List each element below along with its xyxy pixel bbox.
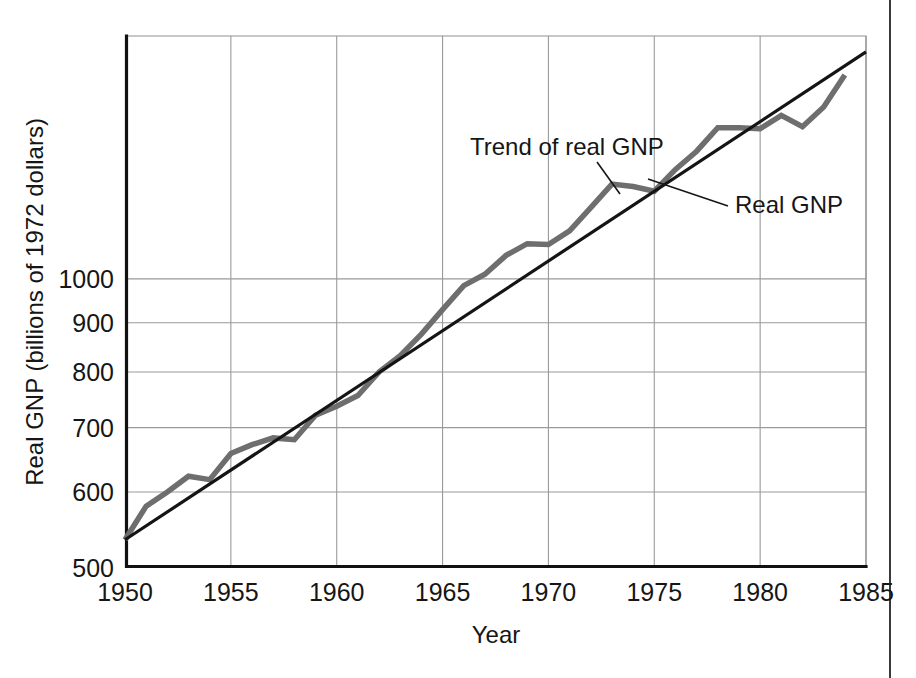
x-tick-label-1955: 1955 [203, 578, 259, 606]
x-tick-label-1985: 1985 [838, 578, 894, 606]
plot-area-background [125, 36, 866, 568]
y-tick-label-700: 700 [72, 414, 114, 442]
x-tick-label-1950: 1950 [97, 578, 153, 606]
x-axis-title: Year [472, 621, 521, 648]
y-tick-label-800: 800 [72, 358, 114, 386]
x-tick-label-1965: 1965 [415, 578, 471, 606]
x-tick-label-1980: 1980 [732, 578, 788, 606]
annotation-real-gnp: Real GNP [735, 191, 843, 218]
x-tick-label-1960: 1960 [309, 578, 365, 606]
annotation-trend-of-real-gnp: Trend of real GNP [470, 133, 664, 160]
real-gnp-chart: 5006007008009001000 19501955196019651970… [0, 0, 916, 678]
x-tick-label-1975: 1975 [626, 578, 682, 606]
chart-page: 5006007008009001000 19501955196019651970… [0, 0, 916, 678]
y-axis-title: Real GNP (billions of 1972 dollars) [21, 118, 48, 486]
x-tick-label-1970: 1970 [521, 578, 577, 606]
y-axis-tick-labels: 5006007008009001000 [58, 265, 114, 582]
y-tick-label-1000: 1000 [58, 265, 114, 293]
y-tick-label-900: 900 [72, 309, 114, 337]
x-axis-tick-labels: 19501955196019651970197519801985 [97, 578, 894, 606]
y-tick-label-600: 600 [72, 478, 114, 506]
